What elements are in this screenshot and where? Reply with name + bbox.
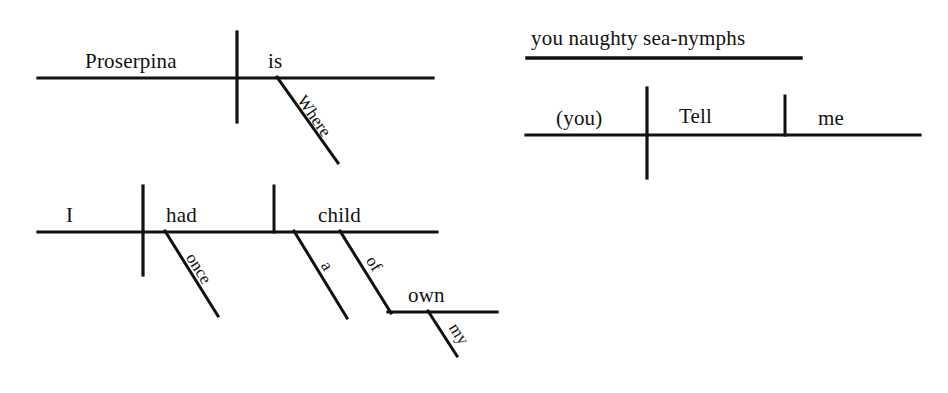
word-own: own [408, 285, 445, 306]
word-child: child [318, 205, 361, 226]
word-tell: Tell [679, 106, 712, 127]
modifier-line-a [294, 231, 347, 318]
word-is: is [268, 51, 282, 72]
word-vocative-sea-nymphs: you naughty sea-nymphs [531, 28, 745, 49]
word-proserpina: Proserpina [85, 51, 177, 72]
preposition-line-of [340, 231, 391, 313]
word-had: had [166, 205, 197, 226]
diagram-i-had-child-lines [38, 186, 497, 356]
word-you-implied: (you) [556, 108, 603, 129]
diagram-canvas: Proserpina is Where I had child once a o… [0, 0, 948, 393]
word-i: I [66, 205, 73, 226]
word-me: me [818, 108, 844, 129]
